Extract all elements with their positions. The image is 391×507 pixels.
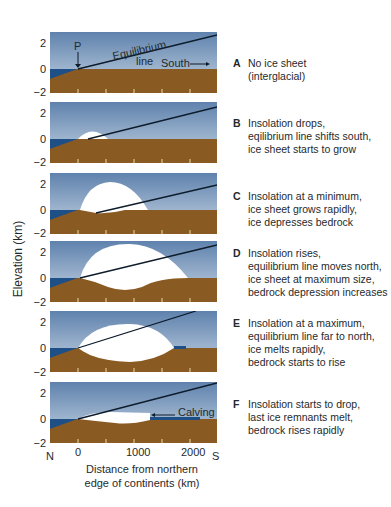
x-tick-1000: 1000 xyxy=(126,446,150,458)
x-axis-label: Distance from northern edge of continent… xyxy=(72,462,212,490)
x-tick-0: 0 xyxy=(75,446,81,458)
panel-c-diagram xyxy=(50,173,217,234)
panel-d-diagram xyxy=(50,241,217,302)
south-label: South xyxy=(161,57,190,69)
x-tick-2000: 2000 xyxy=(181,446,205,458)
line-label: line xyxy=(136,55,153,67)
y-axis-label: Elevation (km) xyxy=(11,221,25,298)
panel-e-diagram xyxy=(50,311,217,372)
x-end-label-n: N xyxy=(46,450,54,462)
caption-f: FInsolation starts to drop, last ice rem… xyxy=(233,398,360,437)
caption-b: BInsolation drops, eqilibrium line shift… xyxy=(233,117,371,156)
caption-d: DInsolation rises, equilibrium line move… xyxy=(233,247,388,299)
caption-a: ANo ice sheet (interglacial) xyxy=(233,57,306,83)
calving-label: Calving xyxy=(178,406,215,418)
caption-c: CInsolation at a minimum, ice sheet grow… xyxy=(233,190,362,229)
x-end-label-s: S xyxy=(212,450,219,462)
point-p-label: P xyxy=(74,40,81,52)
caption-e: EInsolation at a maximum, equilibrium li… xyxy=(233,317,375,369)
panel-b-diagram xyxy=(50,102,217,163)
